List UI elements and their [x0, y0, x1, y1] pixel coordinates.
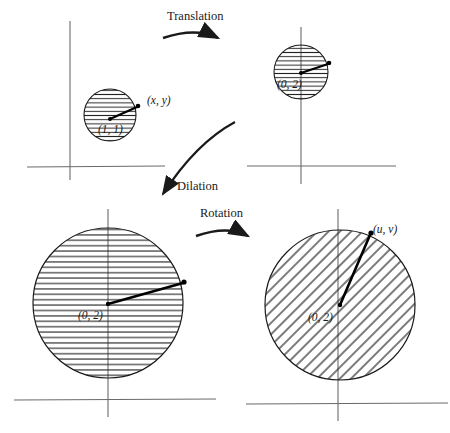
- transformation-diagram: (1, 1) (x, y) (0, 2): [0, 0, 450, 433]
- vector-origin-dot-translated: [299, 71, 303, 75]
- x-axis-dilated: [14, 399, 216, 400]
- center-label-translated: (0, 2): [277, 78, 302, 91]
- dilation-label: Dilation: [177, 179, 219, 193]
- translation-label: Translation: [167, 9, 224, 23]
- center-label-original: (1, 1): [98, 123, 123, 136]
- center-label-rotated: (0, 2): [308, 311, 333, 324]
- vector-tip-dot-translated: [327, 61, 332, 66]
- x-axis-rotated: [246, 403, 448, 404]
- vector-origin-dot-dilated: [106, 302, 110, 306]
- panel-original: (1, 1) (x, y): [27, 21, 171, 180]
- x-axis-original: [27, 166, 165, 167]
- panel-rotated: (0, 2) (u, v): [246, 209, 448, 421]
- panel-dilated: (0, 2): [14, 209, 216, 417]
- vector-tip-dot-original: [136, 104, 141, 109]
- vector-origin-dot-rotated: [338, 303, 342, 307]
- operation-dilation: Dilation: [163, 122, 235, 194]
- operation-rotation: Rotation: [196, 206, 248, 236]
- tip-label-rotated: (u, v): [373, 223, 397, 236]
- vector-origin-dot-original: [108, 117, 112, 121]
- axes-translated: [247, 27, 396, 184]
- rotation-label: Rotation: [200, 206, 244, 220]
- vector-tip-dot-dilated: [181, 279, 186, 284]
- center-label-dilated: (0, 2): [78, 309, 103, 322]
- operation-translation: Translation: [163, 9, 224, 38]
- translation-arrow-icon: [163, 33, 218, 39]
- rotation-arrow-icon: [196, 231, 248, 237]
- panel-translated: (0, 2): [247, 27, 396, 184]
- tip-label-original: (x, y): [147, 94, 171, 107]
